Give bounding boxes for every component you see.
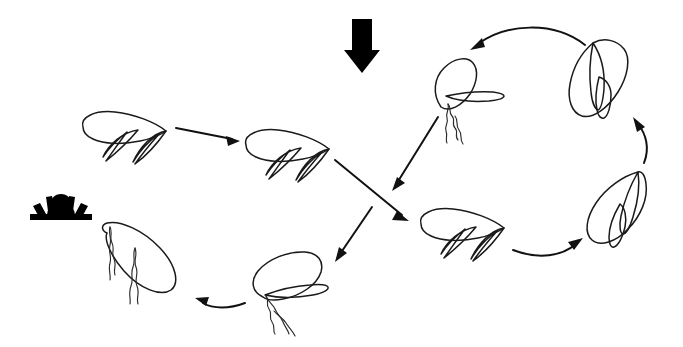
arrow-center-to-bird7: [335, 207, 372, 262]
arrow-bird1-to-bird2: [176, 128, 240, 146]
bird-gliding-lower-mid: [421, 209, 504, 261]
bird-landing-legs-extended: [103, 222, 176, 304]
bird-gliding-mid: [246, 130, 329, 182]
arrow-bird5-to-bird4: [633, 117, 647, 163]
bird-diving-right: [587, 172, 646, 247]
sunset-icon: [30, 194, 92, 220]
diagram-canvas: Bird daily flight and roosting cycle Sun…: [0, 0, 683, 347]
bird-gliding-left: [83, 112, 166, 164]
arrow-bird6-to-bird5: [513, 238, 583, 256]
bird-approach-legs-down: [253, 252, 328, 336]
arrow-bird4-to-bird3: [470, 28, 585, 50]
arrow-bird3-to-center: [392, 117, 438, 191]
bird-climbing-legs-down: [435, 59, 504, 144]
arrow-bird2-to-center: [335, 160, 409, 221]
bird-diving-top-right: [569, 40, 628, 118]
diagram-svg: [0, 0, 683, 347]
arrow-bird7-to-bird8: [195, 297, 245, 308]
thick-down-arrow-icon: [344, 19, 380, 73]
